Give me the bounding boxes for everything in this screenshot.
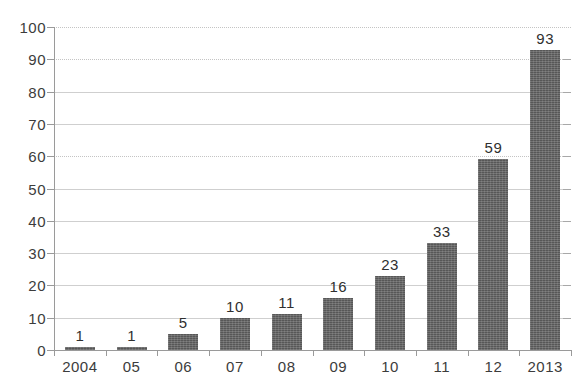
y-tick-70 <box>47 124 54 125</box>
y-axis-line <box>54 27 55 351</box>
y-tick-right-60 <box>563 156 571 157</box>
plot-area <box>54 27 571 350</box>
x-axis-label-07: 07 <box>226 359 244 374</box>
x-tick-10 <box>571 350 572 356</box>
y-tick-right-40 <box>563 221 571 222</box>
x-axis-label-2004: 2004 <box>62 359 97 374</box>
y-axis-label-100: 100 <box>2 20 46 35</box>
x-axis-label-06: 06 <box>174 359 192 374</box>
bar-12 <box>478 159 508 350</box>
x-axis-label-12: 12 <box>485 359 503 374</box>
x-tick-1 <box>106 350 107 356</box>
x-tick-2 <box>157 350 158 356</box>
y-tick-right-30 <box>563 253 571 254</box>
x-axis-label-2013: 2013 <box>527 359 562 374</box>
x-tick-7 <box>416 350 417 356</box>
gridline-100 <box>54 27 571 28</box>
bar-value-12: 59 <box>485 140 503 155</box>
y-axis-label-80: 80 <box>2 84 46 99</box>
y-tick-0 <box>47 350 54 351</box>
x-axis-label-10: 10 <box>381 359 399 374</box>
bar-value-05: 1 <box>127 328 136 343</box>
gridline-70 <box>54 124 571 125</box>
x-tick-4 <box>261 350 262 356</box>
bar-2013 <box>530 50 560 350</box>
bar-09 <box>323 298 353 350</box>
bar-10 <box>375 276 405 350</box>
bar-08 <box>272 314 302 350</box>
y-axis-label-90: 90 <box>2 52 46 67</box>
x-tick-5 <box>313 350 314 356</box>
bar-value-07: 10 <box>226 299 244 314</box>
y-axis-label-50: 50 <box>2 181 46 196</box>
x-axis-label-11: 11 <box>433 359 450 374</box>
x-tick-0 <box>54 350 55 356</box>
y-tick-30 <box>47 253 54 254</box>
y-tick-60 <box>47 156 54 157</box>
bar-11 <box>427 243 457 350</box>
y-axis-label-60: 60 <box>2 149 46 164</box>
bar-value-2013: 93 <box>536 31 554 46</box>
x-axis-label-05: 05 <box>123 359 141 374</box>
y-tick-right-50 <box>563 189 571 190</box>
x-axis-label-08: 08 <box>278 359 296 374</box>
bar-value-11: 33 <box>433 224 451 239</box>
y-tick-right-70 <box>563 124 571 125</box>
bar-value-2004: 1 <box>75 328 84 343</box>
bar-value-06: 5 <box>179 315 188 330</box>
x-tick-9 <box>519 350 520 356</box>
y-tick-50 <box>47 189 54 190</box>
y-tick-80 <box>47 92 54 93</box>
x-tick-3 <box>209 350 210 356</box>
bar-value-08: 11 <box>278 295 295 310</box>
bar-06 <box>168 334 198 350</box>
y-tick-right-90 <box>563 59 571 60</box>
gridline-90 <box>54 59 571 60</box>
y-tick-right-20 <box>563 285 571 286</box>
y-axis-label-10: 10 <box>2 310 46 325</box>
x-axis-label-09: 09 <box>330 359 348 374</box>
bar-value-09: 16 <box>330 279 348 294</box>
y-axis-label-0: 0 <box>2 343 46 358</box>
y-tick-10 <box>47 318 54 319</box>
y-tick-40 <box>47 221 54 222</box>
y-axis-label-40: 40 <box>2 213 46 228</box>
y-tick-right-10 <box>563 318 571 319</box>
gridline-80 <box>54 92 571 93</box>
y-axis-tick-labels: 100 90 80 70 60 50 40 30 20 10 0 <box>0 0 46 391</box>
bar-07 <box>220 318 250 350</box>
y-axis-label-70: 70 <box>2 116 46 131</box>
y-tick-100 <box>47 27 54 28</box>
y-tick-20 <box>47 285 54 286</box>
y-axis-label-20: 20 <box>2 278 46 293</box>
x-tick-6 <box>364 350 365 356</box>
y-axis-label-30: 30 <box>2 246 46 261</box>
bar-chart: 100 90 80 70 60 50 40 30 20 10 0 1 1 5 1… <box>0 0 583 391</box>
y-tick-90 <box>47 59 54 60</box>
x-tick-8 <box>468 350 469 356</box>
bar-value-10: 23 <box>381 257 399 272</box>
y-tick-right-80 <box>563 92 571 93</box>
